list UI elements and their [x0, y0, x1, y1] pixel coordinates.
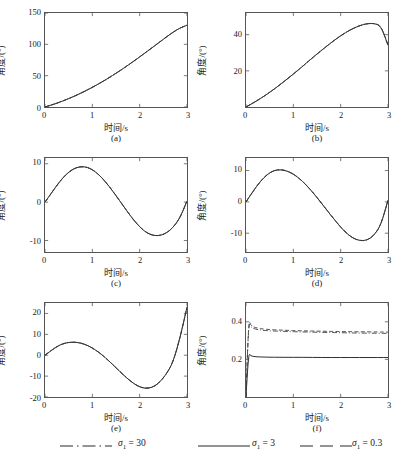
x-tick-label-e: 2 [132, 400, 148, 410]
y-tick-label-a: 100 [11, 39, 41, 49]
x-tick-label-d: 3 [381, 255, 397, 265]
x-tick-label-a: 1 [84, 110, 100, 120]
figure-legend: σ1 = 30σ1 = 3σ1 = 0.3 [0, 433, 402, 459]
plot-canvas-c [45, 158, 187, 252]
x-tick-label-f: 2 [333, 400, 349, 410]
y-tick-label-e: 20 [11, 307, 41, 317]
legend-line-sample-2 [198, 441, 250, 451]
y-tick-label-d: 0 [212, 196, 242, 206]
y-axis-label-e: 角度/(°) [0, 321, 7, 381]
plot-canvas-a [45, 13, 187, 107]
x-tick-label-b: 3 [381, 110, 397, 120]
plot-area-b [245, 12, 389, 108]
x-tick-label-b: 1 [285, 110, 301, 120]
legend-line-sample-3 [300, 441, 352, 451]
legend-label-2: σ1 = 3 [252, 438, 275, 451]
series-line-d [246, 170, 388, 241]
series-line-e [45, 307, 187, 388]
x-tick-label-e: 1 [84, 400, 100, 410]
x-tick-label-f: 0 [237, 400, 253, 410]
plot-canvas-d [246, 158, 388, 252]
series-line-c [45, 167, 187, 236]
plot-area-a [44, 12, 188, 108]
y-tick-label-a: 50 [11, 71, 41, 81]
y-tick-label-c: 10 [11, 157, 41, 167]
y-axis-label-c: 角度/(°) [0, 176, 7, 236]
x-tick-label-c: 0 [36, 255, 52, 265]
y-axis-label-d: 角度/(°) [195, 176, 208, 236]
y-tick-label-b: 40 [212, 29, 242, 39]
y-tick-label-c: -10 [11, 236, 41, 246]
x-tick-label-e: 3 [180, 400, 196, 410]
x-tick-label-f: 1 [285, 400, 301, 410]
series-line-f [246, 324, 388, 397]
plot-area-f [245, 302, 389, 398]
plot-canvas-b [246, 13, 388, 107]
x-tick-label-b: 2 [333, 110, 349, 120]
x-tick-label-a: 3 [180, 110, 196, 120]
x-tick-label-c: 1 [84, 255, 100, 265]
x-tick-label-d: 2 [333, 255, 349, 265]
x-tick-label-a: 0 [36, 110, 52, 120]
legend-line-sample-1 [60, 441, 112, 451]
panel-caption-f: (f) [245, 423, 389, 433]
y-tick-label-f: 0.2 [212, 354, 242, 364]
x-tick-label-b: 0 [237, 110, 253, 120]
series-line-e [45, 307, 187, 388]
y-tick-label-f: 0.4 [212, 316, 242, 326]
plot-canvas-e [45, 303, 187, 397]
y-axis-label-a: 角度/(°) [0, 31, 7, 91]
panel-caption-b: (b) [245, 133, 389, 143]
y-axis-label-b: 角度/(°) [195, 31, 208, 91]
panel-caption-c: (c) [44, 278, 188, 288]
series-line-b [246, 23, 388, 107]
series-line-d [246, 170, 388, 241]
plot-area-c [44, 157, 188, 253]
x-tick-label-e: 0 [36, 400, 52, 410]
series-line-d [246, 170, 388, 241]
series-line-f [246, 354, 388, 397]
legend-label-1: σ1 = 30 [118, 438, 146, 451]
x-tick-label-c: 2 [132, 255, 148, 265]
series-line-c [45, 167, 187, 236]
y-tick-label-b: 20 [212, 66, 242, 76]
series-line-e [45, 307, 187, 388]
x-tick-label-c: 3 [180, 255, 196, 265]
panel-caption-e: (e) [44, 423, 188, 433]
y-tick-label-d: -10 [212, 228, 242, 238]
y-tick-label-c: 0 [11, 197, 41, 207]
series-line-a [45, 25, 187, 107]
plot-canvas-f [246, 303, 388, 397]
x-tick-label-d: 1 [285, 255, 301, 265]
x-tick-label-f: 3 [381, 400, 397, 410]
legend-label-3: σ1 = 0.3 [352, 438, 382, 451]
y-axis-label-f: 角度/(°) [195, 321, 208, 381]
y-tick-label-d: 10 [212, 164, 242, 174]
x-tick-label-a: 2 [132, 110, 148, 120]
x-tick-label-d: 0 [237, 255, 253, 265]
y-tick-label-e: 0 [11, 350, 41, 360]
y-tick-label-a: 150 [11, 7, 41, 17]
panel-caption-a: (a) [44, 133, 188, 143]
plot-area-d [245, 157, 389, 253]
y-tick-label-e: -10 [11, 371, 41, 381]
series-line-c [45, 167, 187, 236]
plot-area-e [44, 302, 188, 398]
y-tick-label-e: 10 [11, 329, 41, 339]
figure-container: 0501001500123角度/(°)时间/s(a)20400123角度/(°)… [0, 0, 402, 459]
series-line-f [246, 322, 388, 397]
panel-caption-d: (d) [245, 278, 389, 288]
